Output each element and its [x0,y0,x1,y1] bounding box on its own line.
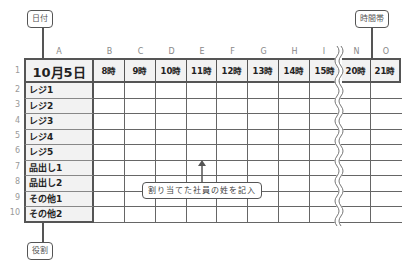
role-cell[interactable]: 品出し1 [24,161,94,176]
column-header-E[interactable]: E [187,47,217,57]
role-cell[interactable]: 品出し2 [24,176,94,192]
column-header-O[interactable]: O [371,47,401,57]
row-number[interactable]: 2 [0,85,20,94]
column-header-A[interactable]: A [24,47,94,57]
callout-role-leader [42,223,44,243]
row-number[interactable]: 9 [0,193,20,202]
row-number[interactable]: 7 [0,162,20,171]
role-cell[interactable]: レジ3 [24,114,94,130]
column-header-G[interactable]: G [248,47,279,57]
column-header-H[interactable]: H [279,47,310,57]
role-cell[interactable]: レジ5 [24,145,94,161]
column-break-wave-icon [333,46,345,226]
callout-timeslot: 時間帯 [355,10,389,28]
column-header-C[interactable]: C [125,47,156,57]
hour-cell[interactable]: 12時 [217,58,248,83]
date-cell[interactable]: 10月5日 [24,58,94,83]
hour-cell[interactable]: 9時 [125,58,156,83]
column-header-N[interactable]: N [342,47,371,57]
role-cell[interactable]: その他2 [24,207,94,223]
row-number[interactable]: 1 [0,66,20,75]
hour-cell[interactable]: 11時 [187,58,217,83]
arrow-up-icon [197,160,207,182]
hour-cell[interactable]: 14時 [279,58,310,83]
row-number[interactable]: 10 [0,208,20,217]
row-number[interactable]: 4 [0,116,20,125]
row-number[interactable]: 8 [0,177,20,186]
role-cell[interactable]: レジ4 [24,130,94,145]
column-header-D[interactable]: D [156,47,187,57]
callout-role: 役割 [27,242,53,260]
role-cell[interactable]: その他1 [24,192,94,207]
hour-cell[interactable]: 13時 [248,58,279,83]
row-number[interactable]: 3 [0,100,20,109]
role-cell[interactable]: レジ1 [24,83,94,99]
callout-instruction: 割り当てた社員の姓を記入 [142,182,262,199]
column-header-F[interactable]: F [217,47,248,57]
hour-cell[interactable]: 21時 [371,58,401,83]
assignment-grid-lines[interactable] [94,83,406,225]
hour-cell[interactable]: 10時 [156,58,187,83]
row-number[interactable]: 6 [0,146,20,155]
column-header-B[interactable]: B [94,47,125,57]
callout-date: 日付 [27,10,53,28]
role-cell[interactable]: レジ2 [24,99,94,114]
row-number[interactable]: 5 [0,131,20,140]
hour-cell[interactable]: 20時 [342,58,371,83]
hour-cell[interactable]: 8時 [94,58,125,83]
